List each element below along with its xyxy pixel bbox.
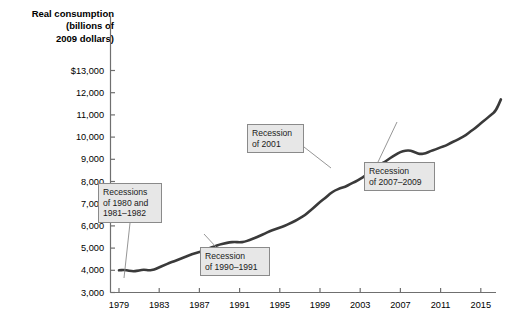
y-axis-tick-label: 7,000: [28, 199, 104, 209]
y-axis-tick-label: 9,000: [28, 154, 104, 164]
y-axis-tick-label: 10,000: [28, 132, 104, 142]
y-axis-tick-label: 3,000: [28, 288, 104, 298]
consumption-line: [119, 99, 501, 271]
annotation-callout-recessions-1980-1982: Recessions of 1980 and 1981–1982: [98, 183, 162, 223]
annotation-callout-recession-1990-1991: Recession of 1990–1991: [200, 247, 270, 276]
y-axis-tick-label: 5,000: [28, 243, 104, 253]
x-axis-tick-label: 2015: [456, 300, 505, 310]
consumption-line-chart: Real consumption (billions of 2009 dolla…: [0, 0, 505, 325]
y-axis-tick-label: 4,000: [28, 265, 104, 275]
y-axis-tick-label: 12,000: [28, 88, 104, 98]
y-axis-tick-label: $13,000: [28, 66, 104, 76]
annotation-leader-line: [204, 234, 216, 247]
annotation-callout-recession-2001: Recession of 2001: [247, 124, 304, 153]
y-axis-tick-label: 8,000: [28, 177, 104, 187]
annotation-leader-line: [304, 147, 331, 168]
y-axis-tick-label: 11,000: [28, 110, 104, 120]
annotation-callout-recession-2007-2009: Recession of 2007–2009: [364, 162, 435, 191]
y-axis-tick-label: 6,000: [28, 221, 104, 231]
